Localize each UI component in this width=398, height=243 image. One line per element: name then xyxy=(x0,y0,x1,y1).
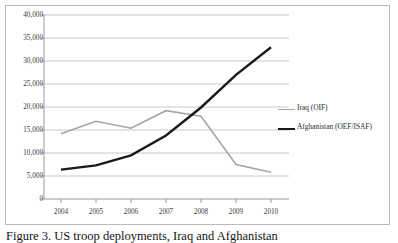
chart-legend: Iraq (OIF) Afghanistan (OEF/ISAF) xyxy=(278,102,390,140)
figure-caption: Figure 3. US troop deployments, Iraq and… xyxy=(6,229,392,243)
x-tick-label: 2009 xyxy=(221,208,251,216)
x-tick-label: 2010 xyxy=(256,208,286,216)
iraq-line-swatch xyxy=(278,109,295,110)
legend-item-afghanistan: Afghanistan (OEF/ISAF) xyxy=(278,121,390,140)
x-tick-label: 2007 xyxy=(151,208,181,216)
x-tick-label: 2004 xyxy=(46,208,76,216)
chart-frame: 40,000 35,000 30,000 25,000 20,000 15,00… xyxy=(5,5,390,225)
legend-label: Afghanistan (OEF/ISAF) xyxy=(297,122,372,132)
x-tick-label: 2005 xyxy=(81,208,111,216)
x-tick-label: 2006 xyxy=(116,208,146,216)
chart-plot-area: 40,000 35,000 30,000 25,000 20,000 15,00… xyxy=(6,6,389,224)
legend-label: Iraq (OIF) xyxy=(297,103,328,113)
x-tick-label: 2008 xyxy=(186,208,216,216)
afghanistan-line-swatch xyxy=(278,128,295,130)
figure-container: 40,000 35,000 30,000 25,000 20,000 15,00… xyxy=(0,0,398,243)
legend-item-iraq: Iraq (OIF) xyxy=(278,102,390,121)
figure-caption-text: Figure 3. US troop deployments, Iraq and… xyxy=(6,229,392,243)
